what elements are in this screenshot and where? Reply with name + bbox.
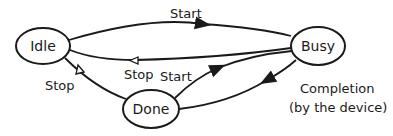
- node-label-done: Done: [133, 101, 170, 117]
- open-arrowhead-icon: [130, 57, 138, 64]
- edge-done-to-idle-stop: Stop: [45, 58, 126, 99]
- state-node-busy: Busy: [291, 27, 345, 65]
- state-diagram: Start Stop Stop Start Completion (by the…: [0, 0, 393, 136]
- edge-idle-to-busy-start: Start: [69, 6, 291, 40]
- edge-label-start-top: Start: [170, 6, 202, 21]
- open-arrowhead-icon: [76, 65, 84, 74]
- edge-label-completion: Completion: [300, 81, 374, 96]
- edge-label-start-lower: Start: [160, 69, 192, 84]
- edge-label-stop-left: Stop: [45, 78, 75, 93]
- node-label-busy: Busy: [301, 38, 335, 54]
- node-label-idle: Idle: [30, 38, 56, 54]
- edge-busy-to-done-completion: Completion (by the device): [179, 60, 387, 115]
- edge-label-stop-middle: Stop: [124, 67, 154, 82]
- state-node-idle: Idle: [16, 28, 70, 64]
- state-node-done: Done: [123, 90, 179, 128]
- edge-sublabel-by-the-device: (by the device): [289, 100, 387, 115]
